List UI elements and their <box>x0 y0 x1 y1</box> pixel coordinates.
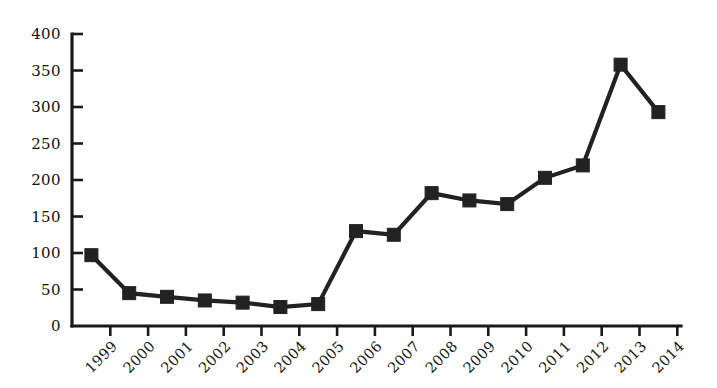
y-tick-label: 200 <box>31 171 61 189</box>
x-tick-label: 2002 <box>196 338 234 376</box>
y-tick-label: 150 <box>31 208 61 226</box>
data-point-marker <box>123 287 136 300</box>
data-point-marker <box>312 298 325 311</box>
x-tick-label: 1999 <box>82 338 120 376</box>
x-tick-label: 2004 <box>271 338 309 376</box>
x-axis-group: 1999200020012002200320042005200620072008… <box>72 326 687 376</box>
data-point-marker <box>463 194 476 207</box>
data-point-marker <box>539 171 552 184</box>
x-tick-label: 2012 <box>574 338 612 376</box>
chart-canvas: 050100150200250300350400 199920002001200… <box>0 0 717 388</box>
x-tick-label: 2010 <box>498 338 536 376</box>
x-tick-label: 2008 <box>422 338 460 376</box>
x-tick-label: 2005 <box>309 338 347 376</box>
data-point-marker <box>425 187 438 200</box>
data-point-marker <box>161 290 174 303</box>
data-point-marker <box>350 225 363 238</box>
x-tick-label: 2003 <box>233 338 271 376</box>
y-tick-label: 100 <box>31 244 61 262</box>
x-axis-tick-labels: 1999200020012002200320042005200620072008… <box>82 338 687 376</box>
data-series-group <box>85 58 665 313</box>
data-point-marker <box>614 58 627 71</box>
data-point-marker <box>652 106 665 119</box>
x-tick-label: 2014 <box>649 338 687 376</box>
y-axis-ticks <box>72 34 83 326</box>
x-tick-label: 2006 <box>347 338 385 376</box>
y-axis-tick-labels: 050100150200250300350400 <box>31 25 61 335</box>
x-tick-label: 2000 <box>120 338 158 376</box>
x-tick-label: 2011 <box>536 338 574 376</box>
line-chart-figure: 050100150200250300350400 199920002001200… <box>0 0 717 388</box>
data-point-marker <box>576 159 589 172</box>
x-tick-label: 2013 <box>611 338 649 376</box>
y-tick-label: 0 <box>51 317 61 335</box>
y-tick-label: 400 <box>31 25 61 43</box>
data-point-marker <box>387 228 400 241</box>
series-line-path <box>91 65 658 307</box>
data-point-marker <box>85 249 98 262</box>
data-point-marker <box>501 198 514 211</box>
x-tick-label: 2009 <box>460 338 498 376</box>
data-point-marker <box>198 294 211 307</box>
y-tick-label: 50 <box>41 281 61 299</box>
data-point-marker <box>274 301 287 314</box>
y-tick-label: 300 <box>31 98 61 116</box>
x-tick-label: 2001 <box>158 338 196 376</box>
y-tick-label: 250 <box>31 135 61 153</box>
data-point-marker <box>236 296 249 309</box>
x-tick-label: 2007 <box>385 338 423 376</box>
y-axis-group: 050100150200250300350400 <box>31 25 83 335</box>
series-markers <box>85 58 665 313</box>
y-tick-label: 350 <box>31 62 61 80</box>
